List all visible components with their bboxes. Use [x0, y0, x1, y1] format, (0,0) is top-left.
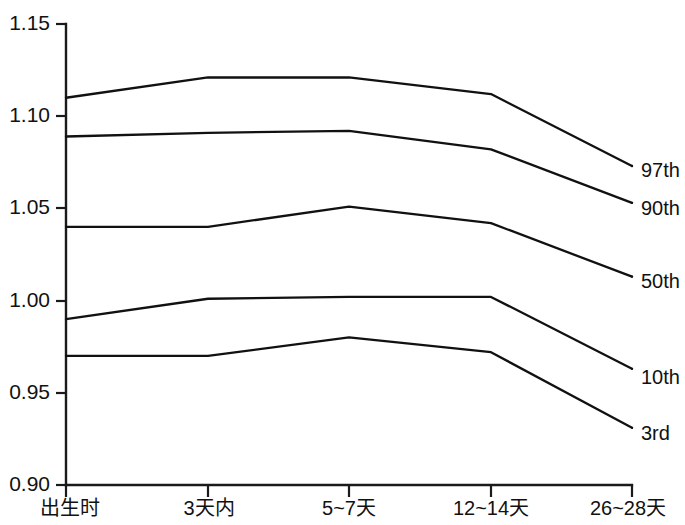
series-label-90th: 90th	[641, 197, 680, 219]
y-tick-label-0.90: 0.90	[9, 472, 50, 495]
series-line-3rd	[66, 337, 632, 427]
series-label-97th: 97th	[641, 159, 680, 181]
x-axis-ticks	[66, 485, 632, 497]
series-line-90th	[66, 131, 632, 203]
series-line-97th	[66, 77, 632, 166]
x-tick-label-0: 出生时	[40, 497, 100, 519]
x-tick-label-2: 5~7天	[322, 497, 376, 519]
x-tick-label-4: 26~28天	[590, 497, 666, 519]
series-line-50th	[66, 207, 632, 277]
x-tick-label-3: 12~14天	[453, 497, 529, 519]
y-tick-label-0.95: 0.95	[9, 380, 50, 403]
x-tick-label-1: 3天内	[183, 497, 234, 519]
series-line-10th	[66, 297, 632, 369]
series-labels-group: 97th 90th 50th 10th 3rd	[641, 159, 680, 444]
chart-canvas: 1.15 1.10 1.05 1.00 0.95 0.90 出生时 3天内 5~…	[0, 0, 685, 525]
y-tick-label-1.00: 1.00	[9, 288, 50, 311]
y-tick-labels: 1.15 1.10 1.05 1.00 0.95 0.90	[9, 11, 50, 495]
y-tick-label-1.10: 1.10	[9, 103, 50, 126]
series-label-50th: 50th	[641, 270, 680, 292]
y-tick-label-1.15: 1.15	[9, 11, 50, 34]
x-tick-labels: 出生时 3天内 5~7天 12~14天 26~28天	[40, 497, 666, 519]
percentile-line-chart: 1.15 1.10 1.05 1.00 0.95 0.90 出生时 3天内 5~…	[0, 0, 685, 525]
data-series-group	[66, 77, 632, 427]
y-axis-ticks	[56, 24, 66, 485]
series-label-10th: 10th	[641, 366, 680, 388]
y-tick-label-1.05: 1.05	[9, 195, 50, 218]
series-label-3rd: 3rd	[641, 422, 670, 444]
